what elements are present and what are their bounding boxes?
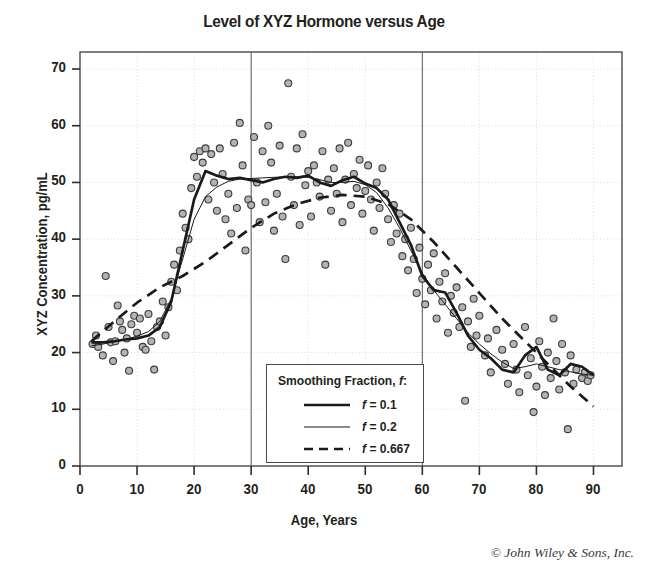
y-tick-label: 50 xyxy=(35,172,66,188)
y-tick-label: 20 xyxy=(35,343,66,359)
chart-figure: Level of XYZ Hormone versus Age XYZ Conc… xyxy=(0,0,648,576)
legend-entry: f = 0.667 xyxy=(278,439,418,461)
x-tick-label: 70 xyxy=(461,481,498,497)
legend-entry-label: f = 0.2 xyxy=(362,419,397,434)
legend-entry: f = 0.2 xyxy=(278,417,418,439)
y-tick-label: 30 xyxy=(35,286,66,302)
y-tick-label: 60 xyxy=(35,116,66,132)
x-tick-label: 90 xyxy=(575,481,612,497)
y-tick-label: 70 xyxy=(35,59,66,75)
x-tick-label: 50 xyxy=(347,481,384,497)
legend-entry-label: f = 0.1 xyxy=(362,397,397,412)
x-tick-label: 10 xyxy=(119,481,156,497)
copyright-credit: © John Wiley & Sons, Inc. xyxy=(491,545,634,561)
x-tick-label: 80 xyxy=(518,481,555,497)
x-tick-label: 20 xyxy=(176,481,213,497)
legend-title: Smoothing Fraction, f: xyxy=(278,373,407,388)
legend-title-suffix: : xyxy=(403,373,407,388)
x-tick-label: 60 xyxy=(404,481,441,497)
x-tick-label: 0 xyxy=(62,481,99,497)
x-tick-label: 40 xyxy=(290,481,327,497)
x-tick-label: 30 xyxy=(233,481,270,497)
y-tick-label: 40 xyxy=(35,229,66,245)
legend-entry: f = 0.1 xyxy=(278,395,418,417)
legend-value: = 0.667 xyxy=(366,441,410,456)
legend-entry-label: f = 0.667 xyxy=(362,441,410,456)
legend-value: = 0.2 xyxy=(366,419,397,434)
y-tick-label: 0 xyxy=(35,456,66,472)
legend: Smoothing Fraction, f: f = 0.1f = 0.2f =… xyxy=(266,364,424,463)
legend-title-text: Smoothing Fraction, xyxy=(278,373,399,388)
legend-value: = 0.1 xyxy=(366,397,397,412)
y-tick-label: 10 xyxy=(35,399,66,415)
